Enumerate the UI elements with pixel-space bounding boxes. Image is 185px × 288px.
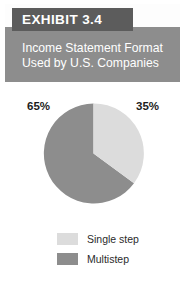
legend-swatch-multistep	[57, 253, 78, 265]
exhibit-banner: EXHIBIT 3.4	[12, 8, 133, 31]
exhibit-subtitle-band: Income Statement Format Used by U.S. Com…	[5, 27, 180, 82]
legend-swatch-single-step	[57, 233, 78, 245]
chart-legend: Single step Multistep	[57, 230, 167, 270]
legend-item-multistep: Multistep	[57, 250, 167, 267]
legend-label-multistep: Multistep	[87, 253, 129, 265]
pie-chart-area: 65% 35% Single step Multistep	[5, 82, 180, 281]
pie-chart	[43, 103, 144, 204]
exhibit-number-label: EXHIBIT 3.4	[12, 12, 102, 27]
exhibit-title-line-1: Income Statement Format	[22, 41, 163, 56]
pie-chart-svg	[43, 103, 144, 204]
exhibit-card: Income Statement Format Used by U.S. Com…	[5, 4, 180, 281]
exhibit-title: Income Statement Format Used by U.S. Com…	[22, 41, 163, 71]
exhibit-title-line-2: Used by U.S. Companies	[22, 56, 163, 71]
legend-item-single-step: Single step	[57, 230, 167, 247]
legend-label-single-step: Single step	[87, 233, 139, 245]
